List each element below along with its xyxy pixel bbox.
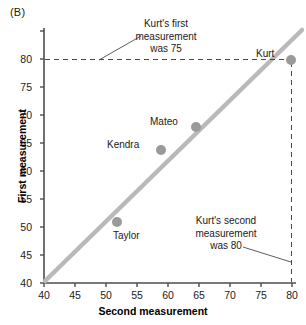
point-label-mateo: Mateo [150,116,178,127]
y-axis-title: First measurement [16,86,28,226]
annotation-kurt-second-measurement: Kurt's second measurement was 80 [176,215,276,253]
x-tick-label-75: 75 [250,289,272,301]
point-label-kurt: Kurt [256,48,274,59]
y-tick-label-40: 40 [10,277,32,289]
scatter-plot-figure: (B) [0,0,306,325]
annotation-kurt-first-measurement: Kurt's first measurement was 75 [118,18,214,56]
y-tick-label-80: 80 [10,53,32,65]
data-point-mateo [191,122,201,132]
x-tick-label-65: 65 [188,289,210,301]
data-point-kurt [286,55,296,65]
point-label-taylor: Taylor [113,230,140,241]
x-tick-label-50: 50 [95,289,117,301]
x-tick-label-40: 40 [33,289,55,301]
y-tick-label-45: 45 [10,249,32,261]
point-label-kendra: Kendra [107,139,139,150]
data-point-kendra [156,145,166,155]
x-tick-label-70: 70 [219,289,241,301]
x-tick-label-45: 45 [64,289,86,301]
x-tick-label-60: 60 [157,289,179,301]
x-axis-title: Second measurement [0,305,306,317]
x-tick-label-80: 80 [281,289,303,301]
data-point-taylor [112,217,122,227]
x-tick-label-55: 55 [126,289,148,301]
